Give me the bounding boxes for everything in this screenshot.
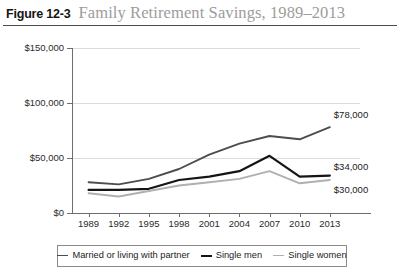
- series-end-label: $78,000: [334, 110, 368, 120]
- x-axis-label: 2010: [289, 219, 310, 229]
- figure-number: Figure 12-3: [6, 7, 71, 21]
- x-tick-mark: [270, 213, 271, 217]
- series-end-label: $30,000: [334, 185, 368, 195]
- legend-swatch-icon: [57, 255, 68, 256]
- x-tick-mark: [239, 213, 240, 217]
- y-axis-label: $0: [53, 208, 64, 218]
- x-tick-mark: [179, 213, 180, 217]
- line-series-group: [72, 48, 360, 213]
- x-axis-label: 2001: [199, 219, 220, 229]
- x-tick-mark: [119, 213, 120, 217]
- y-axis-line: [72, 48, 73, 213]
- legend-swatch-icon: [201, 255, 212, 257]
- figure-header: Figure 12-3 Family Retirement Savings, 1…: [6, 3, 394, 23]
- legend-item[interactable]: Married or living with partner: [57, 251, 189, 260]
- y-axis-label: $150,000: [24, 43, 64, 53]
- chart: $0$50,000$100,000$150,000 19891992199519…: [0, 30, 400, 230]
- legend-label: Single women: [288, 251, 346, 260]
- x-axis-label: 1992: [108, 219, 129, 229]
- x-axis-label: 2007: [259, 219, 280, 229]
- legend-item[interactable]: Single men: [201, 251, 263, 260]
- x-tick-mark: [300, 213, 301, 217]
- y-axis-label: $100,000: [24, 98, 64, 108]
- x-tick-mark: [330, 213, 331, 217]
- x-axis-label: 1989: [78, 219, 99, 229]
- y-axis-label: $50,000: [30, 153, 64, 163]
- x-tick-mark: [149, 213, 150, 217]
- figure-container: Figure 12-3 Family Retirement Savings, 1…: [0, 0, 400, 272]
- x-axis-label: 1995: [138, 219, 159, 229]
- x-axis-line: [72, 213, 371, 214]
- series-end-label: $34,000: [334, 162, 368, 172]
- x-tick-mark: [89, 213, 90, 217]
- legend-label: Single men: [216, 251, 263, 260]
- legend-swatch-icon: [273, 255, 284, 256]
- legend-item[interactable]: Single women: [273, 251, 346, 260]
- legend-label: Married or living with partner: [72, 251, 189, 260]
- series-line: [89, 156, 330, 190]
- x-axis-label: 2013: [319, 219, 340, 229]
- x-tick-mark: [209, 213, 210, 217]
- figure-title: Family Retirement Savings, 1989–2013: [79, 3, 346, 23]
- x-axis-label: 2004: [229, 219, 250, 229]
- plot-area: $0$50,000$100,000$150,000: [72, 48, 360, 213]
- x-axis-label: 1998: [168, 219, 189, 229]
- title-divider: [3, 25, 397, 26]
- chart-legend: Married or living with partnerSingle men…: [57, 245, 347, 267]
